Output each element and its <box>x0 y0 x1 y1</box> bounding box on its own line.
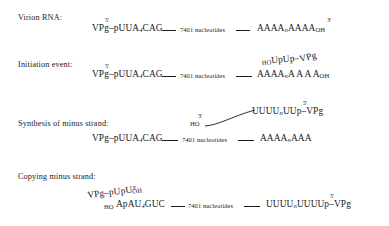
initiation-primer-vpg: VPg <box>298 50 317 64</box>
virion-right-seq-oh: OH <box>315 26 325 33</box>
virion-right-seq-mid: AAAA <box>288 23 315 33</box>
linker-dash-right-synthesis <box>238 140 254 141</box>
synthesis-right-seq-main: AAAA <box>260 133 287 143</box>
synthesis-minus-sequence: UUUUnUUp–VPg <box>252 106 323 116</box>
initiation-primer-sequence: HOUpUp–VPg <box>262 56 317 66</box>
linker-dash-right-initiation <box>236 76 252 77</box>
stage-label-virion-rna: Virion RNA: <box>18 13 62 22</box>
synthesis-ho-label: HO <box>190 120 200 127</box>
initiation-left-sequence: VPg–pUUA4CAG <box>92 69 163 79</box>
virion-linker-label: 7401 nucleotides <box>180 26 225 33</box>
five-prime-marker-synthesis: 5' <box>303 99 307 106</box>
copying-bottom-seq-tail: GUC <box>145 199 165 209</box>
stage-label-initiation-event: Initiation event: <box>18 60 73 69</box>
three-prime-marker-synthesis: 3' <box>198 112 202 119</box>
synthesis-left-seq-tail: CAG <box>143 133 163 143</box>
synthesis-minus-seq-main: UUUU <box>252 106 279 116</box>
copying-linker-label: 7401 nucleotides <box>188 202 233 209</box>
five-prime-marker-virion: 5' <box>105 16 109 23</box>
initiation-right-seq-main: AAAA <box>257 69 284 79</box>
virion-right-sequence: AAAAnAAAAOH <box>257 23 325 33</box>
copying-right-seq-mid: UUUUp–VPg <box>297 199 351 209</box>
synthesis-minus-seq-tail: UUp–VPg <box>283 106 323 116</box>
virion-left-seq-tail: CAG <box>143 23 163 33</box>
three-prime-marker-virion: 3' <box>327 16 331 23</box>
initiation-primer-ho: HO <box>261 58 271 66</box>
copying-right-seq-main: UUUU <box>266 199 293 209</box>
stage-label-synthesis-minus-strand: Synthesis of minus strand: <box>18 119 109 128</box>
linker-dash-right-virion <box>236 30 250 31</box>
initiation-right-seq-mid: A A A A <box>288 69 320 79</box>
five-prime-marker-initiation: 5' <box>105 62 109 69</box>
virion-right-seq-main: AAAA <box>257 23 284 33</box>
initiation-right-seq-oh: OH <box>320 72 330 79</box>
synthesis-right-sequence: AAAAnAAA <box>260 133 312 143</box>
synthesis-right-seq-mid: AAA <box>291 133 312 143</box>
stage-label-copying-minus-strand: Copying minus strand: <box>18 172 96 181</box>
initiation-left-seq-main: VPg–pUUA <box>92 69 139 79</box>
linker-dash-left-virion <box>162 30 176 31</box>
linker-dash-right-copying <box>244 206 260 207</box>
copying-top-seq-sub: OH <box>132 187 143 195</box>
copying-right-sequence: UUUUnUUUUp–VPg <box>266 199 351 209</box>
linker-dash-left-initiation <box>162 76 176 77</box>
five-prime-marker-copying: 5' <box>330 192 334 199</box>
initiation-primer-main: UpUp– <box>271 53 300 65</box>
synthesis-linker-label: 7401 nucleotides <box>182 136 227 143</box>
linker-dash-left-copying <box>171 206 185 207</box>
initiation-linker-label: 7401 nucleotides <box>180 72 225 79</box>
initiation-right-sequence: AAAAnA A A AOH <box>257 69 329 79</box>
copying-ho-label: HO <box>104 203 114 210</box>
synthesis-left-seq-main: VPg–pUUA <box>92 133 139 143</box>
copying-bottom-seq-main: ApAU <box>116 199 141 209</box>
synthesis-left-sequence: VPg–pUUA4CAG <box>92 133 163 143</box>
virion-left-seq-main: VPg–pUUA <box>92 23 139 33</box>
copying-bottom-sequence: ApAU4GUC <box>116 199 165 209</box>
copying-top-seq-main: VPg–pUpU <box>87 185 133 200</box>
virion-left-sequence: VPg–pUUA4CAG <box>92 23 163 33</box>
initiation-left-seq-tail: CAG <box>143 69 163 79</box>
linker-dash-left-synthesis <box>162 140 178 141</box>
